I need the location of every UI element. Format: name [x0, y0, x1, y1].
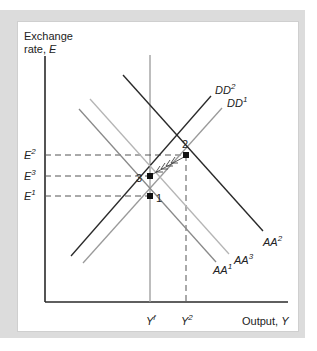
- point-1-label: 1: [156, 192, 162, 204]
- equilibrium-point-2: [183, 152, 189, 158]
- e3-label: E3: [24, 168, 36, 182]
- dd1-label: DD1: [227, 95, 247, 109]
- e1-label: E1: [24, 188, 36, 202]
- point-2-label: 2: [182, 138, 188, 150]
- point-3-label: 3: [136, 172, 142, 184]
- y-axis-title-line1: Exchange: [24, 30, 73, 42]
- equilibrium-point-1: [147, 193, 153, 199]
- e2-label: E2: [24, 147, 36, 161]
- aa3-label: AA3: [233, 252, 254, 266]
- aa1-label: AA1: [212, 262, 232, 276]
- aa1-curve: [79, 109, 216, 262]
- x-axis-title: Output, Y: [242, 315, 289, 327]
- adjustment-arrows: [153, 157, 184, 174]
- y2-label: Y2: [181, 313, 193, 327]
- y-axis-title-line2: rate, E: [24, 43, 57, 55]
- dd1-curve: [83, 108, 222, 263]
- aa2-label: AA2: [262, 234, 283, 248]
- dd2-label: DD2: [215, 82, 236, 96]
- yf-label: Yf: [146, 313, 156, 327]
- dd-aa-diagram: 1 2 3 Exchange rate, E Output, Y E2 E3 E…: [0, 0, 317, 351]
- equilibrium-point-3: [147, 173, 153, 179]
